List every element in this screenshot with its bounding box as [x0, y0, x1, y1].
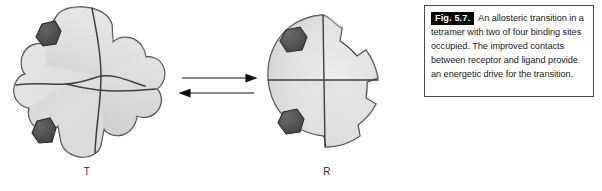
- equilibrium-arrow-pair: [178, 66, 258, 108]
- t-state-label: T: [67, 166, 107, 177]
- equilibrium-arrows: [178, 66, 258, 108]
- figure-caption-text: Fig. 5.7.An allosteric transition in a t…: [431, 11, 586, 81]
- r-state-label: R: [307, 166, 347, 177]
- figure-number-tag: Fig. 5.7.: [431, 12, 474, 26]
- ligand-icon-upper-left: [280, 27, 307, 52]
- figure-caption-box: Fig. 5.7.An allosteric transition in a t…: [424, 5, 594, 97]
- t-state-diagram: [6, 4, 176, 162]
- t-state-panel: [6, 4, 176, 162]
- ligand-icon-upper-left: [36, 21, 61, 46]
- r-state-diagram: [254, 8, 402, 160]
- figure-allosteric-transition: T: [0, 0, 602, 191]
- r-state-panel: [254, 8, 402, 160]
- r-subunit-bottom-right: [323, 80, 376, 147]
- reverse-arrow-head: [180, 89, 190, 96]
